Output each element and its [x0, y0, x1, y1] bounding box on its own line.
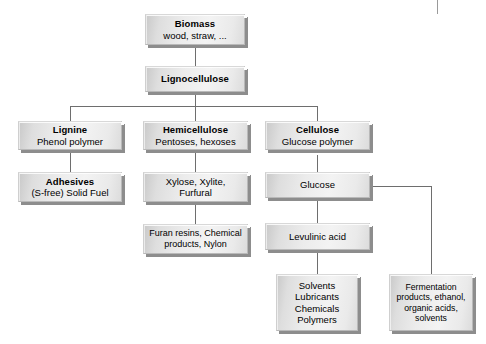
connector-lignocellulose-down — [195, 92, 196, 106]
node-solvents[interactable]: Solvents Lubricants Chemicals Polymers — [276, 274, 358, 331]
connector-hemicellulose-to-xylose — [195, 150, 196, 172]
node-cellulose-subtitle: Glucose polymer — [282, 136, 353, 147]
node-glucose-label: Glucose — [300, 179, 335, 190]
node-levulinic-acid[interactable]: Levulinic acid — [265, 223, 370, 250]
page-edge-artifact — [437, 0, 438, 14]
connector-bus-to-cellulose — [317, 106, 318, 121]
node-lignocellulose-title: Lignocellulose — [161, 73, 229, 84]
node-hemicellulose[interactable]: Hemicellulose Pentoses, hexoses — [143, 121, 248, 150]
node-cellulose[interactable]: Cellulose Glucose polymer — [265, 121, 370, 150]
node-solvents-line1: Solvents — [299, 280, 335, 291]
node-furan-resins[interactable]: Furan resins, Chemical products, Nylon — [143, 224, 248, 254]
node-xylose-line2: Furfural — [179, 187, 212, 198]
node-fermentation-line2: products, ethanol, — [396, 292, 465, 302]
connector-distribution-bus — [70, 106, 318, 107]
node-lignocellulose[interactable]: Lignocellulose — [145, 66, 245, 92]
node-adhesives-subtitle: (S-free) Solid Fuel — [31, 187, 108, 198]
node-fermentation-line1: Fermentation — [405, 282, 456, 292]
node-furan-resins-line1: Furan resins, Chemical — [149, 228, 242, 239]
node-lignine-subtitle: Phenol polymer — [37, 136, 103, 147]
node-solvents-line3: Chemicals — [295, 303, 339, 314]
connector-xylose-to-furan — [195, 202, 196, 224]
connector-glucose-to-fermentation-horizontal — [370, 186, 432, 187]
node-adhesives[interactable]: Adhesives (S-free) Solid Fuel — [18, 172, 122, 202]
node-furan-resins-line2: products, Nylon — [164, 239, 227, 250]
node-hemicellulose-title: Hemicellulose — [163, 124, 228, 135]
node-fermentation-line3: organic acids, — [404, 303, 458, 313]
node-solvents-line2: Lubricants — [295, 291, 339, 302]
connector-cellulose-to-glucose — [317, 155, 318, 172]
node-lignine-title: Lignine — [53, 124, 87, 135]
node-biomass-title: Biomass — [175, 18, 215, 29]
node-glucose[interactable]: Glucose — [265, 172, 370, 198]
node-xylose[interactable]: Xylose, Xylite, Furfural — [143, 172, 248, 202]
node-xylose-line1: Xylose, Xylite, — [166, 176, 226, 187]
node-adhesives-title: Adhesives — [46, 176, 94, 187]
node-biomass[interactable]: Biomass wood, straw, ... — [145, 14, 245, 45]
connector-lignine-to-adhesives — [70, 150, 71, 172]
connector-bus-to-lignine — [70, 106, 71, 121]
node-levulinic-acid-label: Levulinic acid — [289, 231, 346, 242]
node-solvents-line4: Polymers — [297, 314, 337, 325]
node-cellulose-title: Cellulose — [296, 124, 339, 135]
node-lignine[interactable]: Lignine Phenol polymer — [18, 121, 122, 150]
node-fermentation-line4: solvents — [415, 313, 447, 323]
connector-bus-to-hemicellulose — [195, 106, 196, 121]
node-biomass-subtitle: wood, straw, ... — [163, 30, 226, 41]
connector-glucose-to-levulinic — [317, 198, 318, 223]
diagram-canvas: Biomass wood, straw, ... Lignocellulose … — [0, 0, 486, 344]
connector-biomass-to-lignocellulose — [195, 45, 196, 66]
connector-levulinic-to-solvents — [317, 250, 318, 274]
connector-glucose-to-fermentation-vertical — [431, 186, 432, 274]
node-fermentation[interactable]: Fermentation products, ethanol, organic … — [389, 274, 473, 331]
node-hemicellulose-subtitle: Pentoses, hexoses — [155, 136, 235, 147]
